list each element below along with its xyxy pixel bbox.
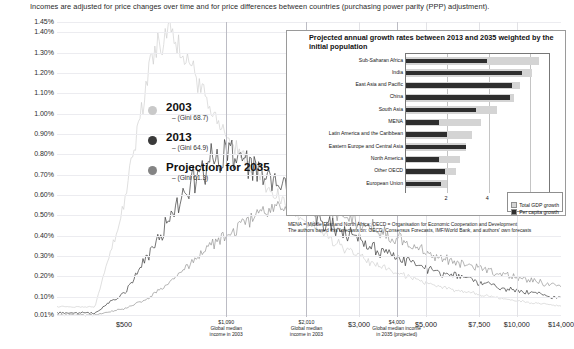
y-tick-15: 0.01% <box>34 311 54 318</box>
inset-bar-label: South Asia <box>379 106 403 112</box>
legend-item-2013: 2013 – (Gini 64.9) <box>148 132 298 162</box>
x-tick-major-4: $10,000 <box>504 320 530 329</box>
inset-plot-area: Sub-Saharan AfricaIndiaEast Asia and Pac… <box>405 53 550 193</box>
y-tick-11: 0.40% <box>34 232 54 239</box>
inset-legend: Total GDP growth Per capita growth <box>507 192 563 212</box>
inset-bar-label: China <box>390 93 403 99</box>
x-annotation-2-line2: in 2035 (projected) <box>372 332 421 338</box>
inset-bar-per-capita <box>406 71 522 76</box>
legend-swatch-2035 <box>148 166 157 175</box>
inset-bar-label: North America <box>371 155 403 161</box>
inset-bar-row: Latin America and the Caribbean <box>406 129 551 141</box>
x-annotation-0-line1: Global median <box>210 326 243 332</box>
inset-bar-per-capita <box>406 59 487 64</box>
inset-growth-chart: Projected annual growth rates between 20… <box>286 30 566 216</box>
inset-bar-row: North America <box>406 153 551 165</box>
gridline-h-15 <box>57 315 561 316</box>
legend-item-2003: 2003 – (Gini 68.7) <box>148 102 298 132</box>
gridline-h-0 <box>57 22 561 23</box>
main-legend: 2003 – (Gini 68.7) 2013 – (Gini 64.9) Pr… <box>148 102 298 192</box>
y-axis-ticks: 1.45%1.40%1.30%1.20%1.10%1.00%0.90%0.80%… <box>0 22 54 317</box>
inset-title: Projected annual growth rates between 20… <box>309 33 559 51</box>
inset-bar-per-capita <box>406 145 466 150</box>
legend-label-2003: 2003 <box>166 101 192 113</box>
x-annotation-2-line1: Global median income <box>372 326 421 332</box>
inset-bar-per-capita <box>406 83 512 88</box>
inset-bar-row: China <box>406 92 551 104</box>
x-annotation-1-line1: Global median <box>290 326 323 332</box>
inset-bar-per-capita <box>406 120 439 125</box>
x-tick-major-5: $14,000 <box>548 320 574 329</box>
inset-x-tick-1: 4 <box>486 195 489 201</box>
x-tick-major-1: $3,000 <box>348 320 370 329</box>
inset-bar-label: European Union <box>366 180 403 186</box>
y-tick-6: 0.90% <box>34 130 54 137</box>
inset-bar-label: MENA <box>388 118 403 124</box>
gridline-h-11 <box>57 236 561 237</box>
inset-bar-label: Eastern Europe and Central Asia <box>329 143 403 149</box>
inset-footnote: MENA = Middle East and North Africa; OEC… <box>288 222 568 234</box>
y-tick-8: 0.70% <box>34 171 54 178</box>
x-annotation-0: Global medianincome in 2003 <box>210 326 243 337</box>
x-tick-minor-1: $2,010 <box>299 319 315 325</box>
inset-bar-per-capita <box>406 108 476 113</box>
inset-bar-row: MENA <box>406 117 551 129</box>
gridline-h-12 <box>57 256 561 257</box>
footnote-line-2: The authors based this forecasts on: OEC… <box>288 228 568 234</box>
x-tick-major-0: $500 <box>116 320 132 329</box>
inset-bar-row: Other OECD <box>406 166 551 178</box>
y-tick-7: 0.80% <box>34 150 54 157</box>
inset-bar-label: Other OECD <box>374 167 403 173</box>
y-tick-12: 0.30% <box>34 252 54 259</box>
inset-bar-label: East Asia and Pacific <box>355 81 403 87</box>
y-tick-1: 1.40% <box>34 28 54 35</box>
legend-item-2035: Projection for 2035 – (Gini 61.3) <box>148 162 298 192</box>
inset-bar-row: India <box>406 67 551 79</box>
x-annotation-0-line2: income in 2003 <box>210 332 243 338</box>
gridline-h-14 <box>57 297 561 298</box>
legend-label-2013: 2013 <box>166 131 192 143</box>
inset-legend-item-percapita: Per capita growth <box>511 202 559 209</box>
x-annotation-2: Global median incomein 2035 (projected) <box>372 326 421 337</box>
gridline-h-13 <box>57 276 561 277</box>
inset-bar-per-capita <box>406 169 445 174</box>
legend-gini-2003: – (Gini 68.7) <box>172 114 208 121</box>
inset-bar-per-capita <box>406 132 447 137</box>
y-tick-2: 1.30% <box>34 49 54 56</box>
legend-swatch-2013 <box>148 136 157 145</box>
inset-legend-swatch-percapita <box>511 209 517 215</box>
inset-bar-per-capita <box>406 157 439 162</box>
inset-legend-item-total: Total GDP growth <box>511 195 559 202</box>
inset-bar-label: Sub-Saharan Africa <box>359 57 403 63</box>
inset-bar-per-capita <box>406 182 441 187</box>
curve-projection-for-2035 <box>57 199 561 316</box>
legend-gini-2013: – (Gini 64.9) <box>172 144 208 151</box>
y-tick-3: 1.20% <box>34 69 54 76</box>
inset-bar-row: Eastern Europe and Central Asia <box>406 141 551 153</box>
header-note: Incomes are adjusted for price changes o… <box>30 2 560 11</box>
y-tick-10: 0.50% <box>34 211 54 218</box>
y-tick-14: 0.10% <box>34 293 54 300</box>
x-tick-major-3: $7,500 <box>468 320 490 329</box>
y-tick-13: 0.20% <box>34 272 54 279</box>
y-tick-5: 1.00% <box>34 110 54 117</box>
inset-legend-label-percapita: Per capita growth <box>519 209 559 215</box>
inset-bar-per-capita <box>406 95 510 100</box>
y-tick-0: 1.45% <box>34 18 54 25</box>
inset-bar-label: India <box>392 69 403 75</box>
x-tick-minor-2: $4,000 <box>389 319 405 325</box>
x-tick-minor-0: $1,090 <box>218 319 234 325</box>
inset-bar-row: South Asia <box>406 104 551 116</box>
y-tick-4: 1.10% <box>34 89 54 96</box>
inset-x-tick-0: 2 <box>444 195 447 201</box>
inset-bar-row: East Asia and Pacific <box>406 80 551 92</box>
inset-bar-row: Sub-Saharan Africa <box>406 55 551 67</box>
inset-bar-label: Latin America and the Caribbean <box>329 130 403 136</box>
x-annotation-1-line2: income in 2003 <box>290 332 323 338</box>
y-tick-9: 0.60% <box>34 191 54 198</box>
legend-swatch-2003 <box>148 106 157 115</box>
legend-label-2035: Projection for 2035 <box>166 161 270 173</box>
legend-gini-2035: – (Gini 61.3) <box>172 174 208 181</box>
inset-bar-row: European Union <box>406 178 551 190</box>
x-annotation-1: Global medianincome in 2003 <box>290 326 323 337</box>
